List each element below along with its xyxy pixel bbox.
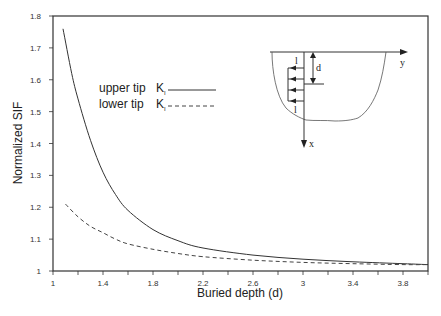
x-tick-label: 3.8 xyxy=(397,279,409,288)
inset-y-label: y xyxy=(400,57,405,68)
y-tick-label: 1.8 xyxy=(30,12,42,21)
inset-arrowhead-icon xyxy=(290,88,296,93)
inset-crack-top-label: l xyxy=(295,55,298,66)
x-tick-label: 3 xyxy=(301,279,306,288)
x-tick-label: 3.4 xyxy=(347,279,359,288)
inset-body-outline xyxy=(272,52,386,121)
y-tick-label: 1.1 xyxy=(30,235,42,244)
inset-depth-arrow-down-icon xyxy=(310,78,316,84)
y-tick-label: 1.6 xyxy=(30,76,42,85)
inset-depth-arrow-up-icon xyxy=(310,52,316,58)
x-tick-label: 1.8 xyxy=(147,279,159,288)
inset-x-label: x xyxy=(309,138,314,149)
inset-arrowhead-icon xyxy=(290,99,296,104)
legend-symbol-upper: KI xyxy=(156,81,166,96)
inset-y-arrow-icon xyxy=(400,49,408,55)
legend: upper tip KI lower tip KI xyxy=(99,81,216,112)
plot-frame xyxy=(53,16,428,271)
inset-arrowhead-icon xyxy=(290,77,296,82)
y-tick-label: 1.2 xyxy=(30,203,42,212)
legend-label-lower: lower tip xyxy=(99,97,144,111)
sif-chart: 11.41.82.22.633.43.8 11.11.21.31.41.51.6… xyxy=(0,0,441,316)
inset-arrowhead-icon xyxy=(290,66,296,71)
y-tick-label: 1 xyxy=(37,267,42,276)
y-tick-label: 1.3 xyxy=(30,171,42,180)
inset-depth-label: d xyxy=(316,62,321,73)
lower-tip-curve xyxy=(66,204,429,265)
y-axis-ticks: 11.11.21.31.41.51.61.71.8 xyxy=(30,12,53,276)
y-axis-title: Normalized SIF xyxy=(11,102,25,185)
inset-crack-schematic: y x d l l xyxy=(270,49,408,149)
inset-crack-bottom-label: l xyxy=(294,104,297,115)
y-tick-label: 1.4 xyxy=(30,140,42,149)
x-tick-label: 1.4 xyxy=(97,279,109,288)
x-axis-title: Buried depth (d) xyxy=(197,286,283,300)
legend-symbol-lower: KI xyxy=(156,97,166,112)
x-tick-label: 1 xyxy=(51,279,56,288)
inset-x-arrow-icon xyxy=(301,140,307,148)
legend-label-upper: upper tip xyxy=(99,81,146,95)
y-tick-label: 1.5 xyxy=(30,108,42,117)
y-tick-label: 1.7 xyxy=(30,44,42,53)
upper-tip-curve xyxy=(63,29,428,265)
